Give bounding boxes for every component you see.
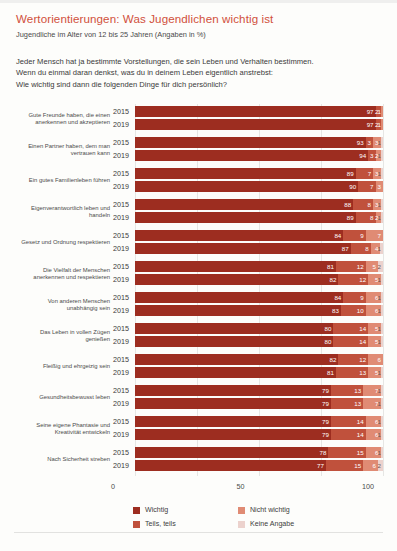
bar-segment-teils-teils: 14 (331, 429, 366, 440)
year-label: 2019 (113, 181, 135, 192)
bar-value-label: 12 (359, 274, 368, 285)
bar-segment-teils-teils: 8 (351, 243, 371, 254)
year-label: 2019 (113, 212, 135, 223)
bar-segment-keine-angabe: 1 (381, 137, 383, 148)
category-label-line: Nach Sicherheit streben (47, 456, 110, 463)
category-label-line: Die Vielfalt der Menschen (43, 267, 110, 274)
bar-value-label: 2 (378, 460, 383, 471)
chart-legend: WichtigNicht wichtigTeils, teilsKeine An… (133, 503, 373, 531)
bar-value-label: 82 (329, 274, 338, 285)
stacked-bar: 801451 (135, 323, 383, 334)
year-label: 2019 (113, 150, 135, 161)
bar-value-label: 89 (347, 168, 356, 179)
legend-item: Keine Angabe (238, 520, 358, 528)
bar-segment-teils-teils: 8 (353, 199, 373, 210)
bar-row: 20159721 (113, 106, 383, 117)
bar-row: 2019791461 (113, 429, 383, 440)
bar-value-label: 14 (357, 416, 366, 427)
stacked-bar: 82126 (135, 354, 383, 365)
bar-value-label: 89 (347, 212, 356, 223)
category-label-line: Das Leben in vollen Zügen (40, 329, 110, 336)
bar-segment-wichtig: 97 (135, 106, 376, 117)
bar-group-bars: 20158112522019821251 (113, 259, 383, 289)
bar-value-label: 13 (359, 367, 368, 378)
bar-value-label: 1 (378, 274, 383, 285)
bar-group: Einen Partner haben, dem manvertrauen ka… (14, 135, 383, 165)
legend-swatch-icon (133, 521, 140, 528)
legend-swatch-icon (133, 507, 140, 514)
question-line-2: Wenn du einmal daran denkst, was du in d… (16, 67, 314, 78)
bar-segment-teils-teils: 13 (331, 398, 363, 409)
bar-group-bars: 20158497201987841 (113, 228, 383, 258)
bar-row: 201994321 (113, 150, 383, 161)
stacked-bar: 88831 (135, 199, 383, 210)
category-label: Gute Freunde haben, die einenanerkennen … (14, 104, 110, 134)
legend-item: Wichtig (133, 506, 238, 514)
bar-segment-keine-angabe: 1 (381, 447, 383, 458)
stacked-bar: 821251 (135, 274, 383, 285)
bar-value-label: 81 (327, 261, 336, 272)
year-label: 2015 (113, 261, 135, 272)
bar-segment-keine-angabe: 1 (381, 429, 383, 440)
year-label: 2015 (113, 292, 135, 303)
category-label-line: Einen Partner haben, dem man (28, 143, 110, 150)
question-line-3: Wie wichtig sind dann die folgenden Ding… (16, 79, 314, 90)
bar-group: Gesetz und Ordnung respektieren201584972… (14, 228, 383, 258)
axis-tick-label: 100 (362, 482, 374, 491)
bar-value-label: 79 (322, 429, 331, 440)
bar-value-label: 90 (349, 181, 358, 192)
bar-segment-nicht-wichtig: 6 (368, 354, 383, 365)
bar-segment-teils-teils: 9 (343, 230, 365, 241)
year-label: 2019 (113, 460, 135, 471)
stacked-bar: 94321 (135, 150, 383, 161)
stacked-bar: 9073 (135, 181, 383, 192)
bar-group-bars: 20157815612019771562 (113, 445, 383, 475)
year-label: 2015 (113, 354, 135, 365)
bar-value-label: 94 (359, 150, 368, 161)
bar-row: 2019821251 (113, 274, 383, 285)
category-label-line: anerkennen und akzeptieren (35, 119, 110, 126)
year-label: 2019 (113, 243, 135, 254)
bar-row: 2015811252 (113, 261, 383, 272)
bar-value-label: 15 (357, 447, 366, 458)
bar-value-label: 1 (378, 106, 383, 117)
bar-segment-wichtig: 88 (135, 199, 353, 210)
bar-group-bars: 2015821262019811351 (113, 352, 383, 382)
bar-value-label: 79 (322, 385, 331, 396)
category-label: Eigenverantwortlich leben undhandeln (14, 197, 110, 227)
bar-value-label: 79 (322, 398, 331, 409)
category-label: Gesetz und Ordnung respektieren (14, 228, 110, 258)
gridline (383, 104, 384, 476)
bar-segment-wichtig: 77 (135, 460, 326, 471)
axis-tick-label: 0 (111, 482, 115, 491)
bar-segment-keine-angabe: 2 (378, 261, 383, 272)
bar-value-label: 10 (357, 305, 366, 316)
legend-swatch-icon (238, 521, 245, 528)
stacked-bar: 811252 (135, 261, 383, 272)
year-label: 2015 (113, 168, 135, 179)
bar-segment-wichtig: 83 (135, 305, 341, 316)
bar-value-label: 87 (342, 243, 351, 254)
year-label: 2015 (113, 106, 135, 117)
bar-group-bars: 201588831201989821 (113, 197, 383, 227)
stacked-bar: 831061 (135, 305, 383, 316)
bar-value-label: 88 (344, 199, 353, 210)
legend-label: Teils, teils (145, 520, 176, 528)
bar-value-label: 78 (320, 447, 329, 458)
bar-segment-wichtig: 97 (135, 119, 376, 130)
bar-value-label: 12 (359, 354, 368, 365)
stacked-bar: 791371 (135, 385, 383, 396)
category-label: Von anderen Menschenunabhängig sein (14, 290, 110, 320)
bar-segment-keine-angabe: 1 (381, 150, 383, 161)
bar-value-label: 1 (378, 416, 383, 427)
bar-segment-nicht-wichtig: 5 (366, 261, 378, 272)
year-label: 2015 (113, 230, 135, 241)
bar-segment-teils-teils: 7 (358, 181, 375, 192)
bar-segment-teils-teils: 12 (336, 261, 366, 272)
year-label: 2019 (113, 274, 135, 285)
bar-segment-wichtig: 80 (135, 336, 333, 347)
bar-segment-wichtig: 84 (135, 230, 343, 241)
stacked-bar: 84961 (135, 292, 383, 303)
chart-bar-groups: Gute Freunde haben, die einenanerkennen … (14, 104, 383, 476)
bar-row: 20199721 (113, 119, 383, 130)
